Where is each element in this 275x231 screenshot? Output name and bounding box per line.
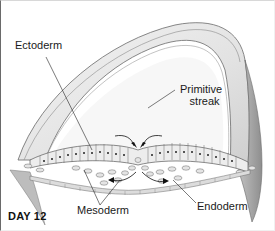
label-primitive-streak: Primitive streak [180, 83, 222, 107]
endoderm-layer [30, 170, 250, 195]
embryo-illustration [0, 0, 275, 231]
label-primitive-streak-line1: Primitive [180, 83, 222, 95]
label-endoderm: Endoderm [197, 200, 248, 212]
figure-title-day: DAY 12 [8, 210, 47, 222]
label-mesoderm: Mesoderm [77, 204, 129, 216]
label-primitive-streak-line2: streak [180, 95, 222, 107]
label-ectoderm: Ectoderm [15, 39, 62, 51]
